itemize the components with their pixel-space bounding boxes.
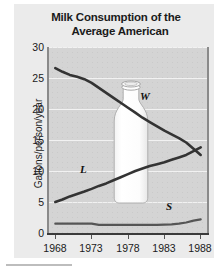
y-axis-line [47, 47, 49, 235]
y-tick-label-25: 25 [0, 72, 44, 84]
x-tick-mark-1978 [128, 235, 129, 239]
y-tick-label-10: 10 [0, 165, 44, 177]
y-axis-tick-labels: 30 25 20 15 10 5 0 [0, 0, 44, 271]
x-tick-mark-1988 [200, 235, 201, 239]
x-tick-mark-1968 [55, 235, 56, 239]
footer-rule [6, 264, 72, 266]
x-tick-mark-1983 [164, 235, 165, 239]
chart-title-line-2: Average American [26, 25, 206, 39]
x-tick-label-1988: 1988 [180, 242, 220, 254]
series-line-L [55, 147, 200, 202]
y-tick-label-15: 15 [0, 134, 44, 146]
plot-inner: W L S [48, 47, 208, 233]
chart-title: Milk Consumption of the Average American [26, 11, 206, 38]
data-lines [48, 47, 208, 233]
series-line-S [55, 219, 200, 225]
series-label-L: L [80, 163, 87, 175]
x-tick-label-1968: 1968 [35, 242, 75, 254]
chart-title-line-1: Milk Consumption of the [26, 11, 206, 25]
chart-figure: Milk Consumption of the Average American… [0, 0, 224, 271]
series-label-S: S [166, 200, 172, 212]
x-tick-mark-1973 [91, 235, 92, 239]
y-tick-label-5: 5 [0, 196, 44, 208]
y-tick-label-0: 0 [0, 227, 44, 239]
x-tick-label-1983: 1983 [144, 242, 184, 254]
plot-area: W L S [48, 47, 208, 233]
x-tick-label-1978: 1978 [108, 242, 148, 254]
plot-right-border [207, 47, 209, 235]
x-tick-label-1973: 1973 [71, 242, 111, 254]
y-tick-label-30: 30 [0, 41, 44, 53]
series-label-W: W [140, 90, 150, 102]
series-line-W [55, 68, 200, 155]
y-tick-label-20: 20 [0, 103, 44, 115]
